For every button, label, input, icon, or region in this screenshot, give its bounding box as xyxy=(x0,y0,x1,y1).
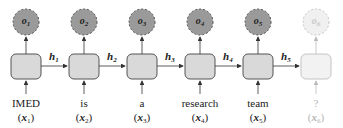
hidden-label-1: h1 xyxy=(49,50,59,64)
input-arrows xyxy=(26,81,258,94)
cell-1 xyxy=(11,54,41,79)
output-label-3: o3 xyxy=(129,15,155,28)
cell-6 xyxy=(301,54,331,79)
input-label-2: (x2) xyxy=(54,111,114,127)
input-label-4: (x4) xyxy=(170,111,230,127)
word-label-4: research xyxy=(170,97,230,109)
cell-4 xyxy=(185,54,215,79)
cell-3 xyxy=(127,54,157,79)
word-label-2: is xyxy=(54,97,114,109)
input-label-1: (x1) xyxy=(0,111,56,127)
output-label-5: o5 xyxy=(245,15,271,28)
input-label-5: (x5) xyxy=(228,111,288,127)
hidden-label-4: h4 xyxy=(223,50,233,64)
input-label-6: (x6) xyxy=(286,111,343,127)
cell-2 xyxy=(69,54,99,79)
input-label-3: (x3) xyxy=(112,111,172,127)
output-label-2: o2 xyxy=(71,15,97,28)
hidden-label-3: h3 xyxy=(165,50,175,64)
output-label-6: o6 xyxy=(303,15,329,28)
cell-5 xyxy=(243,54,273,79)
hidden-label-2: h2 xyxy=(107,50,117,64)
output-label-1: o1 xyxy=(13,15,39,28)
word-label-5: team xyxy=(228,97,288,109)
hidden-label-5: h5 xyxy=(281,50,291,64)
word-label-1: IMED xyxy=(0,97,56,109)
word-label-3: a xyxy=(112,97,172,109)
output-label-4: o4 xyxy=(187,15,213,28)
word-label-6: ? xyxy=(286,97,343,109)
